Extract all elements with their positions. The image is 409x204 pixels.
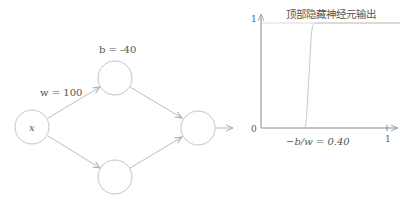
x-tick-label-one: 1 [385,134,391,144]
diagram-canvas: x w = 100 b = -40 1 0 1 顶部隐藏神经元输出 −b/w =… [0,0,409,204]
y-tick-label-zero: 0 [251,124,257,134]
network-nodes [15,61,215,194]
edge-input-to-bottom [48,136,100,168]
y-tick-label-one: 1 [251,14,257,24]
step-position-label: −b/w = 0.40 [286,136,350,147]
bias-label: b = -40 [99,44,136,55]
edge-top-to-output [130,87,182,118]
sigmoid-curve [261,23,400,128]
edge-bottom-to-output [130,137,182,168]
hidden-neuron-bottom [98,160,132,194]
input-label: x [29,122,35,133]
weight-label: w = 100 [40,87,82,98]
chart-title: 顶部隐藏神经元输出 [286,8,376,20]
output-neuron [181,111,215,145]
chart: 1 0 1 顶部隐藏神经元输出 −b/w = 0.40 [251,8,400,147]
hidden-neuron-top [98,61,132,95]
